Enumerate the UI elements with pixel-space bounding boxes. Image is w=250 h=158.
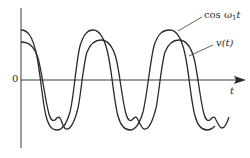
cos-leader-line bbox=[178, 17, 202, 31]
cos-label-prefix: cos ω bbox=[204, 9, 232, 20]
waveform-plot bbox=[0, 0, 250, 158]
cos-curve-label: cos ω1t bbox=[204, 10, 241, 22]
v-leader-line bbox=[189, 45, 213, 56]
cos-label-suffix: t bbox=[237, 9, 241, 20]
v-curve bbox=[21, 40, 229, 129]
v-curve-label: v(t) bbox=[216, 38, 233, 48]
origin-label: 0 bbox=[12, 74, 18, 84]
x-axis-label: t bbox=[230, 86, 234, 96]
